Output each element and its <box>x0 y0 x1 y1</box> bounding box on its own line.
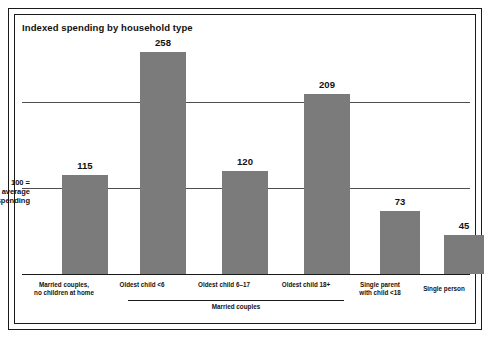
baseline-annotation: 100 = average spending <box>0 178 30 205</box>
bar-oldest-child-under-6[interactable] <box>140 52 186 274</box>
chart-title: Indexed spending by household type <box>22 22 193 33</box>
category-label-single-person: Single person <box>406 285 482 293</box>
bar-value-oldest-child-6-17: 120 <box>215 156 275 167</box>
plot-area: 115 258 120 209 73 45 <box>22 42 470 274</box>
chart-container: Indexed spending by household type 115 2… <box>0 0 492 340</box>
group-bracket-line <box>128 300 344 301</box>
bar-oldest-child-18-plus[interactable] <box>304 94 350 274</box>
bar-single-parent[interactable] <box>380 211 420 274</box>
bar-married-no-children[interactable] <box>62 175 108 274</box>
bar-value-married-no-children: 115 <box>55 160 115 171</box>
bar-oldest-child-6-17[interactable] <box>222 171 268 274</box>
x-axis-line <box>22 274 470 275</box>
gridline-200 <box>22 102 470 103</box>
bar-value-oldest-child-18-plus: 209 <box>297 79 357 90</box>
bar-single-person[interactable] <box>444 235 484 274</box>
group-label-married-couples: Married couples <box>128 303 344 310</box>
category-label-oldest-child-6-17: Oldest child 6–17 <box>186 281 262 289</box>
category-label-married-no-children: Married couples, no children at home <box>26 281 102 297</box>
bar-value-oldest-child-under-6: 258 <box>133 37 193 48</box>
bar-value-single-parent: 73 <box>370 196 430 207</box>
bar-value-single-person: 45 <box>434 220 492 231</box>
category-label-oldest-child-under-6: Oldest child <6 <box>104 281 180 289</box>
category-label-oldest-child-18-plus: Oldest child 18+ <box>268 281 344 289</box>
